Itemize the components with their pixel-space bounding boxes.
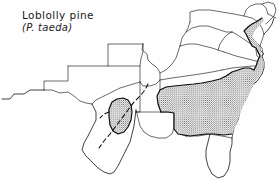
coastline-new-jersey bbox=[264, 18, 274, 34]
state-border-new-england bbox=[262, 2, 276, 24]
range-boundary-disjunct-link bbox=[100, 112, 109, 118]
range-boundary-western-approximate bbox=[99, 84, 148, 148]
state-border-kentucky-north bbox=[180, 44, 224, 52]
species-scientific-name: (P. taeda) bbox=[22, 22, 94, 35]
state-border-florida bbox=[206, 134, 232, 178]
state-border-west-virginia bbox=[218, 32, 232, 50]
state-border-texas bbox=[2, 90, 44, 99]
state-border-kansas bbox=[108, 44, 143, 66]
range-main-block bbox=[157, 31, 264, 136]
range-map-figure: Loblolly pine (P. taeda) bbox=[0, 0, 279, 182]
state-border-kentucky-south bbox=[160, 70, 222, 80]
state-border-louisiana-coast bbox=[136, 110, 174, 138]
range-fill-layer bbox=[109, 18, 264, 136]
state-border-oklahoma bbox=[44, 66, 68, 90]
range-atlantic-coastal-strip bbox=[244, 18, 264, 42]
state-border-missouri-west bbox=[140, 44, 143, 82]
state-border-new-york bbox=[244, 4, 268, 16]
state-border-illinois bbox=[160, 46, 180, 73]
state-border-connecticut bbox=[268, 14, 276, 18]
species-common-name: Loblolly pine bbox=[22, 9, 94, 22]
state-border-red-river bbox=[44, 90, 92, 104]
figure-caption: Loblolly pine (P. taeda) bbox=[22, 9, 94, 35]
